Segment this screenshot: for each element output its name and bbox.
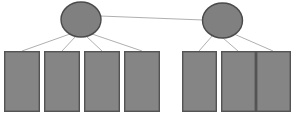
diagram-node-node-left[interactable] — [61, 2, 101, 37]
leaves-layer — [5, 52, 291, 112]
diagram-edge-edge-l1 — [22, 34, 70, 51]
diagram-leaf-leaf-l4[interactable] — [125, 52, 160, 112]
diagram-canvas — [0, 0, 299, 119]
diagram-edge-edge-l3 — [86, 36, 102, 51]
diagram-leaf-leaf-l2[interactable] — [45, 52, 80, 112]
diagram-leaf-leaf-l3[interactable] — [85, 52, 120, 112]
diagram-edge-edge-l2 — [62, 36, 76, 51]
diagram-edge-edge-r2 — [223, 38, 238, 51]
diagram-leaf-leaf-r3[interactable] — [257, 52, 291, 112]
diagram-leaf-leaf-r1[interactable] — [183, 52, 217, 112]
diagram-node-node-right[interactable] — [203, 3, 243, 38]
diagram-leaf-leaf-r2[interactable] — [222, 52, 256, 112]
diagram-edge-edge-node-node — [100, 16, 203, 20]
diagram-leaf-leaf-l1[interactable] — [5, 52, 40, 112]
diagram-edge-edge-r1 — [199, 35, 213, 51]
diagram-edge-edge-r3 — [234, 34, 273, 51]
nodes-layer — [61, 2, 243, 38]
diagram-svg — [0, 0, 299, 119]
